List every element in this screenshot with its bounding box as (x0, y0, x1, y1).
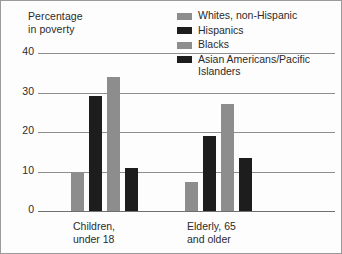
legend-swatch-icon-4 (177, 56, 192, 63)
bar-2-4[interactable] (239, 158, 252, 211)
y-axis-title: Percentage in poverty (28, 10, 83, 35)
legend-label-3: Blacks (198, 38, 229, 51)
category-label-2: Elderly, 65 and older (187, 220, 236, 245)
bar-1-4[interactable] (125, 168, 138, 211)
legend-label-1: Whites, non-Hispanic (198, 9, 297, 22)
chart-legend: Whites, non-HispanicHispanicsBlacksAsian… (177, 9, 335, 80)
legend-item-4[interactable]: Asian Americans/Pacific Islanders (177, 53, 335, 78)
category-label-1: Children, under 18 (73, 220, 115, 245)
legend-swatch-icon-3 (177, 42, 192, 49)
legend-item-1[interactable]: Whites, non-Hispanic (177, 9, 335, 22)
legend-swatch-icon-1 (177, 13, 192, 20)
legend-label-2: Hispanics (198, 24, 244, 37)
legend-item-2[interactable]: Hispanics (177, 24, 335, 37)
legend-item-3[interactable]: Blacks (177, 38, 335, 51)
bar-2-2[interactable] (203, 136, 216, 211)
bar-group-1 (71, 53, 143, 211)
bar-2-3[interactable] (221, 104, 234, 211)
y-axis-tick-20: 20 (22, 124, 34, 136)
legend-swatch-icon-2 (177, 27, 192, 34)
bar-1-2[interactable] (89, 96, 102, 211)
legend-label-4: Asian Americans/Pacific Islanders (198, 53, 310, 78)
y-axis-tick-30: 30 (22, 85, 34, 97)
y-axis-tick-40: 40 (22, 45, 34, 57)
chart-figure: Percentage in poverty 010203040 Whites, … (0, 0, 342, 254)
bar-1-3[interactable] (107, 77, 120, 211)
axis-baseline (38, 211, 335, 212)
y-axis-tick-10: 10 (22, 164, 34, 176)
bar-1-1[interactable] (71, 173, 84, 211)
bar-2-1[interactable] (185, 182, 198, 211)
y-axis-tick-0: 0 (28, 203, 34, 215)
